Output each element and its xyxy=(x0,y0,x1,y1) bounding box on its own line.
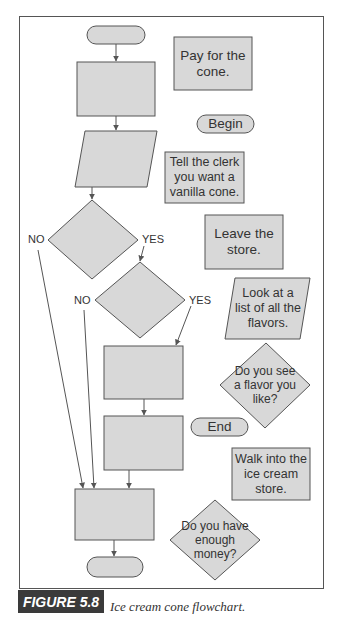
process-box-4 xyxy=(75,489,154,540)
input-parallelogram xyxy=(75,131,157,187)
decision-diamond-1 xyxy=(48,200,138,279)
process-box-1 xyxy=(77,62,155,116)
figure-label: FIGURE 5.8 xyxy=(18,590,104,613)
d2-yes-label: YES xyxy=(189,294,211,306)
d1-yes-label: YES xyxy=(142,233,164,245)
answer-tell-text: Tell the clerk you want a vanilla cone. xyxy=(166,152,243,203)
answer-look-text: Look at a list of all the flavors. xyxy=(233,278,303,339)
process-box-3 xyxy=(104,416,183,470)
answer-walk-text: Walk into the ice cream store. xyxy=(233,448,309,500)
answer-begin-text: Begin xyxy=(197,115,254,133)
arrow-d1-yes-to-d2 xyxy=(140,246,144,261)
arrow-d2-yes-to-box2 xyxy=(176,306,191,345)
arrow-d1-no-to-box4 xyxy=(38,250,83,488)
decision-diamond-2 xyxy=(95,262,185,338)
d2-no-label: NO xyxy=(74,294,91,306)
answer-end-text: End xyxy=(191,418,248,436)
end-terminal xyxy=(87,557,143,577)
answer-money-text: Do you have enough money? xyxy=(180,518,250,562)
arrow-d2-no-to-box4 xyxy=(84,310,94,488)
process-box-2 xyxy=(104,346,183,399)
answer-leave-text: Leave the store. xyxy=(212,215,276,269)
answer-pay-text: Pay for the cone. xyxy=(178,37,248,90)
figure-caption: Ice cream cone flowchart. xyxy=(110,599,245,615)
start-terminal xyxy=(87,26,145,44)
d1-no-label: NO xyxy=(28,233,45,245)
answer-see-flavor-text: Do you see a flavor you like? xyxy=(232,362,298,408)
